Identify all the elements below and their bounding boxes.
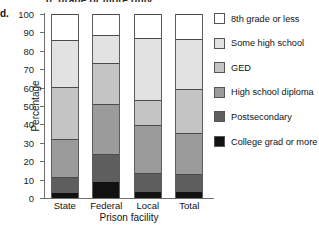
x-axis-label: Prison facility — [44, 212, 214, 223]
legend-label: 8th grade or less — [231, 14, 299, 24]
bar-segment — [176, 133, 202, 174]
stacked-bar — [175, 14, 203, 198]
y-tick-label: 30 — [12, 137, 34, 148]
y-tick-label: 20 — [12, 156, 34, 167]
bar-segment — [52, 40, 78, 87]
stacked-bar — [92, 14, 120, 198]
legend-item: College grad or more — [214, 136, 317, 147]
legend-label: College grad or more — [231, 137, 317, 147]
bar-segment — [176, 89, 202, 133]
stacked-bar — [51, 14, 79, 198]
bar-segment — [135, 192, 161, 198]
legend-label: High school diploma — [231, 87, 314, 97]
bar-segment — [176, 174, 202, 192]
part-letter: d. — [0, 8, 9, 19]
plot-area: 0102030405060708090100 Percentage — [44, 14, 210, 198]
bar-segment — [176, 39, 202, 89]
bar-segment — [135, 100, 161, 126]
legend-item: Some high school — [214, 38, 304, 49]
y-tick-label: 80 — [12, 45, 34, 56]
bar-segment — [52, 87, 78, 139]
legend-item: Postsecondary — [214, 111, 292, 122]
y-tick-label: 0 — [12, 193, 34, 204]
bar-segment — [52, 139, 78, 177]
chart-figure: g. grade or more only d. 010203040506070… — [0, 0, 319, 227]
y-axis-label: Percentage — [30, 80, 41, 131]
legend-swatch-icon — [214, 111, 225, 122]
bar-segment — [52, 193, 78, 198]
y-tick — [40, 14, 44, 15]
bar-segment — [176, 192, 202, 198]
y-tick — [40, 69, 44, 70]
bar-segment — [93, 14, 119, 35]
y-tick-label: 100 — [12, 9, 34, 20]
bar-segment — [93, 182, 119, 198]
y-tick — [40, 180, 44, 181]
legend-label: GED — [231, 63, 251, 73]
stacked-bar — [134, 14, 162, 198]
y-tick-label: 10 — [12, 174, 34, 185]
cutoff-caption-above: g. grade or more only — [46, 0, 152, 2]
bar-segment — [93, 63, 119, 104]
x-axis-line — [44, 198, 214, 199]
legend-label: Some high school — [231, 38, 304, 48]
legend-swatch-icon — [214, 62, 225, 73]
bar-segment — [176, 14, 202, 39]
legend-swatch-icon — [214, 13, 225, 24]
legend-label: Postsecondary — [231, 112, 292, 122]
bar-segment — [52, 14, 78, 40]
y-tick — [40, 198, 44, 199]
x-category-label: Total — [165, 200, 213, 211]
legend-item: High school diploma — [214, 87, 314, 98]
y-tick-label: 70 — [12, 64, 34, 75]
legend-item: GED — [214, 62, 251, 73]
y-tick — [40, 51, 44, 52]
legend-swatch-icon — [214, 87, 225, 98]
bar-segment — [93, 104, 119, 154]
bar-segment — [135, 125, 161, 173]
bar-segment — [93, 154, 119, 183]
y-tick — [40, 161, 44, 162]
legend-swatch-icon — [214, 136, 225, 147]
legend-item: 8th grade or less — [214, 13, 299, 24]
bar-segment — [135, 173, 161, 191]
y-tick — [40, 32, 44, 33]
bar-segment — [135, 14, 161, 38]
y-tick-label: 90 — [12, 27, 34, 38]
legend-swatch-icon — [214, 38, 225, 49]
bar-segment — [93, 35, 119, 63]
y-tick — [40, 143, 44, 144]
bar-segment — [52, 177, 78, 194]
bar-segment — [135, 38, 161, 100]
